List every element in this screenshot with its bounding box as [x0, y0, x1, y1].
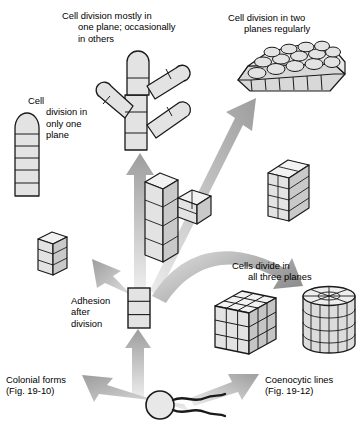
small-cube-stack	[38, 232, 67, 275]
label-d-text: Cells divide in	[232, 260, 290, 271]
label-a-text-line4: plane	[46, 129, 69, 140]
label-d: Cells divide inall three planes	[232, 260, 312, 283]
label-c-text: Cell division in two	[228, 12, 305, 23]
label-coenocytic-line1: Coenocytic lines	[265, 374, 333, 385]
label-adhesion-line1: Adhesion	[71, 295, 110, 306]
adhesion-stack-structure	[128, 288, 150, 328]
label-colonial-line2: (Fig. 19-10)	[6, 385, 54, 396]
cell-sheet-structure	[238, 41, 345, 91]
label-adhesion: Adhesionafterdivision	[71, 295, 110, 329]
multicellularity-pathways-figure: Cell division mostly inone plane; occasi…	[0, 0, 362, 430]
label-b: Cell division mostly inone plane; occasi…	[62, 10, 175, 44]
flagellated-cell-structure	[146, 391, 225, 419]
label-a-text-line3: only one	[46, 118, 81, 129]
label-adhesion-line2: after	[71, 306, 90, 317]
label-colonial-line1: Colonial forms	[6, 374, 66, 385]
label-b-text-line3: in others	[78, 33, 114, 44]
label-coenocytic-line2: (Fig. 19-12)	[265, 385, 313, 396]
arrow-origin-to-adhesion	[125, 329, 151, 398]
label-colonial-forms: Colonial forms(Fig. 19-10)	[6, 374, 66, 397]
label-d-text-line2: all three planes	[248, 271, 312, 282]
label-b-text: Cell division mostly in	[62, 10, 152, 21]
branching-cube-aggregate	[145, 173, 211, 262]
label-c: Cell division in twoplanes regularly	[228, 12, 310, 35]
figure-canvas	[0, 0, 362, 430]
label-a-text: Cell	[28, 95, 44, 106]
branched-filament-structure	[96, 51, 190, 150]
arrow-origin-to-coenocytic	[190, 374, 259, 406]
cylinder-structure	[303, 287, 355, 354]
label-adhesion-line3: division	[71, 318, 102, 329]
big-cube-structure	[215, 291, 276, 354]
label-b-text-line2: one plane; occasionally	[78, 21, 175, 32]
label-a-text-line2: division in	[46, 106, 87, 117]
label-coenocytic-lines: Coenocytic lines(Fig. 19-12)	[265, 374, 333, 397]
label-c-text-line2: planes regularly	[244, 23, 310, 34]
slab-structure	[268, 160, 309, 221]
label-a: Celldivision inonly oneplane	[28, 95, 87, 141]
